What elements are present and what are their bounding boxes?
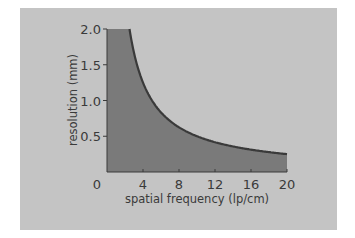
y-ticks: 0.51.01.52.0 — [80, 22, 107, 144]
y-axis-label: resolution (mm) — [66, 54, 80, 146]
x-axis-label: spatial frequency (lp/cm) — [125, 192, 269, 206]
x-tick-label: 12 — [207, 177, 224, 192]
y-tick-label: 2.0 — [80, 22, 101, 37]
chart-svg: 0.51.01.52.0 048121620 spatial frequency… — [0, 0, 355, 238]
y-tick-label: 0.5 — [80, 129, 101, 144]
x-tick-label: 8 — [175, 177, 183, 192]
x-tick-label: 20 — [279, 177, 296, 192]
x-tick-label: 16 — [243, 177, 260, 192]
y-tick-label: 1.5 — [80, 58, 101, 73]
y-tick-label: 1.0 — [80, 94, 101, 109]
x-tick-label: 4 — [139, 177, 147, 192]
x-tick-label: 0 — [93, 177, 101, 192]
